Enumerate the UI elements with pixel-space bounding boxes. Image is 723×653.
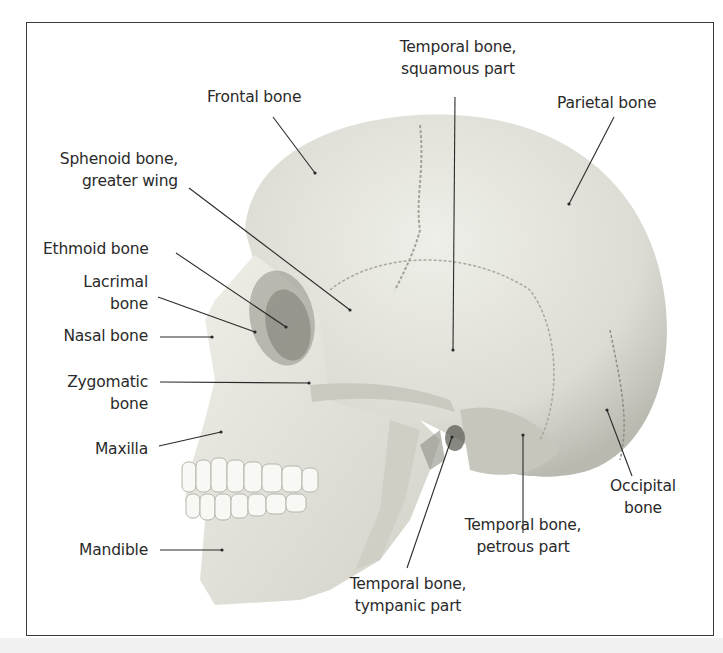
label-sphenoid-bone: Sphenoid bone, greater wing (34, 148, 178, 192)
label-nasal-bone: Nasal bone (40, 325, 148, 347)
label-maxilla: Maxilla (60, 438, 148, 460)
label-zygomatic-bone: Zygomatic bone (50, 371, 148, 415)
label-temporal-bone-petrous: Temporal bone, petrous part (455, 514, 591, 558)
label-temporal-bone-squamous: Temporal bone, squamous part (390, 36, 526, 80)
label-lacrimal-bone: Lacrimal bone (60, 271, 148, 315)
label-mandible: Mandible (50, 539, 148, 561)
label-temporal-bone-tympanic: Temporal bone, tympanic part (340, 573, 476, 617)
label-parietal-bone: Parietal bone (557, 92, 656, 114)
teeth (182, 458, 318, 520)
label-ethmoid-bone: Ethmoid bone (43, 238, 149, 260)
label-frontal-bone: Frontal bone (207, 86, 301, 108)
label-occipital-bone: Occipital bone (598, 475, 688, 519)
